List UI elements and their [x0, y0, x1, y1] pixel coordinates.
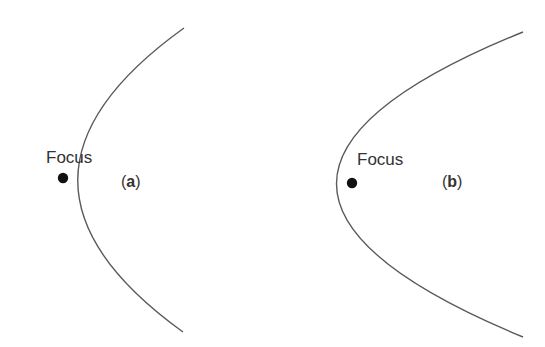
focus-label-a: Focus — [46, 149, 92, 166]
panel-label-b: (b) — [442, 174, 462, 190]
panel-label-a-close: ) — [135, 173, 140, 190]
parabola-curve-b — [337, 32, 524, 337]
panel-b — [337, 32, 524, 337]
focus-point-a — [58, 173, 68, 183]
focus-label-b: Focus — [357, 151, 403, 168]
focus-point-b — [347, 178, 357, 188]
panel-label-b-close: ) — [457, 173, 462, 190]
panel-label-b-letter: b — [447, 173, 457, 190]
panel-label-a-letter: a — [126, 173, 135, 190]
parabola-diagram — [0, 0, 545, 347]
panel-label-a: (a) — [121, 174, 141, 190]
